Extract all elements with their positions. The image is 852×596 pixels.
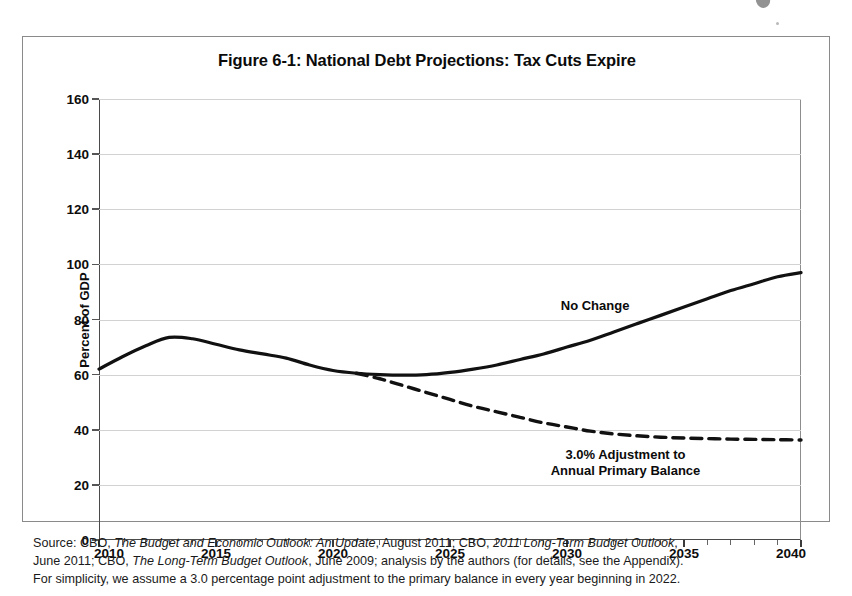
y-axis-tick xyxy=(92,374,99,376)
source-text: Source: CBO, xyxy=(33,536,114,550)
y-axis-tick-label: 60 xyxy=(29,367,89,382)
plot-area: 020406080100120140160 201020152020202520… xyxy=(99,99,801,540)
y-axis-tick xyxy=(92,153,99,155)
annotation-line: 3.0% Adjustment to xyxy=(551,447,701,463)
chart-title: Figure 6-1: National Debt Projections: T… xyxy=(23,51,831,70)
figure-container: Figure 6-1: National Debt Projections: T… xyxy=(22,36,830,522)
source-text: , August 2011; CBO, xyxy=(376,536,493,550)
annotation-line: Annual Primary Balance xyxy=(551,463,701,479)
source-note-line-1: Source: CBO, The Budget and Economic Out… xyxy=(33,534,833,552)
y-axis-tick-label: 160 xyxy=(29,92,89,107)
source-italic-title: The Budget and Economic Outlook: An Upda… xyxy=(114,536,375,550)
source-note-line-2: June 2011; CBO, The Long-Term Budget Out… xyxy=(33,552,833,570)
source-text: June 2011; CBO, xyxy=(33,554,132,568)
y-axis-tick-label: 100 xyxy=(29,257,89,272)
y-axis-tick-label: 140 xyxy=(29,147,89,162)
y-axis-tick-label: 120 xyxy=(29,202,89,217)
source-note-line-3: For simplicity, we assume a 3.0 percenta… xyxy=(33,570,833,588)
source-italic-title: The Long-Term Budget Outlook xyxy=(132,554,308,568)
y-axis-tick xyxy=(92,208,99,210)
y-axis-tick xyxy=(92,264,99,266)
series-line-adjustment xyxy=(356,373,801,440)
y-axis-tick-label: 20 xyxy=(29,477,89,492)
y-axis-tick xyxy=(92,429,99,431)
scan-smudge xyxy=(754,0,772,10)
source-text: , June 2009; analysis by the authors (fo… xyxy=(308,554,683,568)
y-axis-tick xyxy=(92,484,99,486)
annotation-no-change: No Change xyxy=(561,298,630,314)
y-axis-tick xyxy=(92,98,99,100)
series-line-no-change xyxy=(99,273,801,376)
y-axis-tick xyxy=(92,319,99,321)
source-italic-title: 2011 Long-Term Budget Outlook xyxy=(493,536,674,550)
source-text: , xyxy=(674,536,678,550)
y-axis-title: Percent of GDP xyxy=(77,272,92,367)
y-axis-tick-label: 40 xyxy=(29,422,89,437)
scan-speck xyxy=(776,22,779,25)
annotation-line: No Change xyxy=(561,298,630,314)
annotation-adjustment: 3.0% Adjustment toAnnual Primary Balance xyxy=(551,447,701,479)
source-note: Source: CBO, The Budget and Economic Out… xyxy=(33,534,833,588)
scan-artifact xyxy=(0,0,852,30)
